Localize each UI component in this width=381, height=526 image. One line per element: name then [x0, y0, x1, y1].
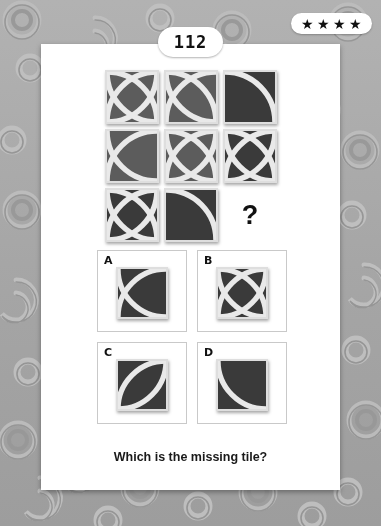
tile-r1c3 — [223, 70, 277, 124]
matrix-cell-r3c1 — [105, 188, 159, 242]
puzzle-matrix: ? — [105, 70, 277, 242]
matrix-cell-r1c1 — [105, 70, 159, 124]
tile-r2c3 — [223, 129, 277, 183]
puzzle-card: ? A B — [41, 44, 340, 490]
tile-r2c1 — [105, 129, 159, 183]
answer-options-row-1: A B — [97, 250, 287, 332]
answer-options-row-2: C D — [97, 342, 287, 424]
star-icon: ★ — [301, 17, 314, 31]
option-tile-c — [116, 359, 168, 411]
answer-option-b[interactable]: B — [197, 250, 287, 332]
option-letter-b: B — [204, 254, 212, 267]
matrix-cell-r3c2 — [164, 188, 218, 242]
star-icon: ★ — [317, 17, 330, 31]
answer-option-c[interactable]: C — [97, 342, 187, 424]
page-number-badge: 112 — [158, 27, 223, 57]
option-letter-a: A — [104, 254, 113, 267]
answer-options: A B — [97, 250, 287, 434]
answer-option-a[interactable]: A — [97, 250, 187, 332]
tile-r1c1 — [105, 70, 159, 124]
matrix-cell-r2c1 — [105, 129, 159, 183]
star-icon: ★ — [349, 17, 362, 31]
tile-r2c2 — [164, 129, 218, 183]
page-number: 112 — [174, 32, 208, 52]
option-letter-c: C — [104, 346, 112, 359]
tile-r3c2 — [164, 188, 218, 242]
matrix-cell-r2c2 — [164, 129, 218, 183]
tile-r3c1 — [105, 188, 159, 242]
puzzle-caption: Which is the missing tile? — [41, 450, 340, 464]
option-tile-d — [216, 359, 268, 411]
option-tile-a — [116, 267, 168, 319]
matrix-cell-r2c3 — [223, 129, 277, 183]
option-tile-b — [216, 267, 268, 319]
missing-tile-question-mark: ? — [223, 188, 277, 242]
star-icon: ★ — [333, 17, 346, 31]
matrix-cell-r1c2 — [164, 70, 218, 124]
tile-r1c2 — [164, 70, 218, 124]
difficulty-stars: ★ ★ ★ ★ — [291, 13, 372, 34]
option-letter-d: D — [204, 346, 213, 359]
answer-option-d[interactable]: D — [197, 342, 287, 424]
matrix-cell-r1c3 — [223, 70, 277, 124]
